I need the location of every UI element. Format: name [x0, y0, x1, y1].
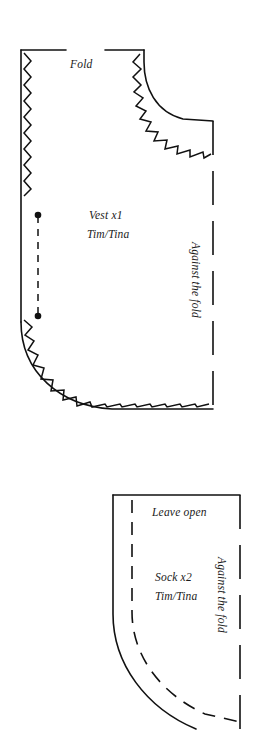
vest-grainline-dot-top — [35, 212, 42, 219]
vest-against-the-fold-label: Against the fold — [190, 242, 202, 318]
sock-maker-label: Tim/Tina — [155, 590, 198, 602]
vest-neckline-curve — [144, 50, 213, 121]
vest-maker-label: Tim/Tina — [87, 228, 130, 240]
sock-left-edge-and-curve — [113, 495, 196, 729]
sock-against-the-fold-label: Against the fold — [216, 557, 228, 633]
pattern-sheet: Fold Vest x1 Tim/Tina Against the fold L… — [0, 0, 272, 730]
vest-bottom-zigzag — [24, 320, 209, 407]
sock-name-label: Sock x2 — [155, 571, 192, 583]
vest-bottom-curve — [21, 322, 213, 409]
sock-leave-open-label: Leave open — [152, 506, 207, 518]
vest-name-label: Vest x1 — [89, 209, 123, 221]
vest-grainline-dot-bottom — [35, 313, 42, 320]
vest-left-zigzag — [24, 53, 31, 196]
pattern-drawing — [0, 0, 272, 730]
vest-fold-label: Fold — [70, 58, 93, 70]
